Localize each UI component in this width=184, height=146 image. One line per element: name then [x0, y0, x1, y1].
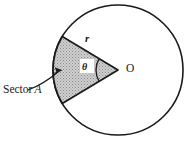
center-point-label: O [126, 63, 134, 75]
sector-label-text: Sector [3, 83, 32, 95]
angle-theta-label: θ [82, 62, 87, 72]
sector-figure: SectorA r θ O [0, 0, 184, 146]
sector-label-variable: A [32, 83, 41, 95]
geometry-canvas [0, 0, 184, 146]
sector-label: SectorA [3, 84, 41, 96]
radius-label: r [85, 33, 89, 44]
